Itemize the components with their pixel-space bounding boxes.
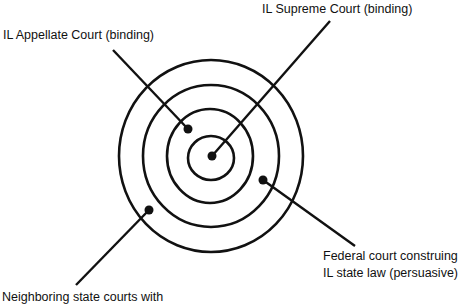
dot-supreme: [208, 152, 217, 161]
label-supreme-court-line-1: IL Supreme Court (binding): [262, 1, 412, 18]
label-federal-court: Federal court construing IL state law (p…: [323, 248, 458, 282]
leader-line-federal: [263, 180, 355, 246]
dot-appellate: [184, 125, 193, 134]
dot-federal: [259, 176, 268, 185]
label-federal-court-line-1: Federal court construing: [323, 248, 458, 265]
label-appellate-court: IL Appellate Court (binding): [3, 27, 154, 44]
leader-line-appellate: [113, 50, 188, 129]
dot-neighboring: [145, 206, 154, 215]
leader-line-neighboring: [76, 210, 149, 285]
label-supreme-court: IL Supreme Court (binding): [262, 1, 412, 18]
label-federal-court-line-2: IL state law (persuasive): [323, 265, 458, 282]
label-neighboring-state-courts-line-1: Neighboring state courts with: [2, 289, 163, 306]
label-appellate-court-line-1: IL Appellate Court (binding): [3, 27, 154, 44]
label-neighboring-state-courts: Neighboring state courts with: [2, 289, 163, 306]
